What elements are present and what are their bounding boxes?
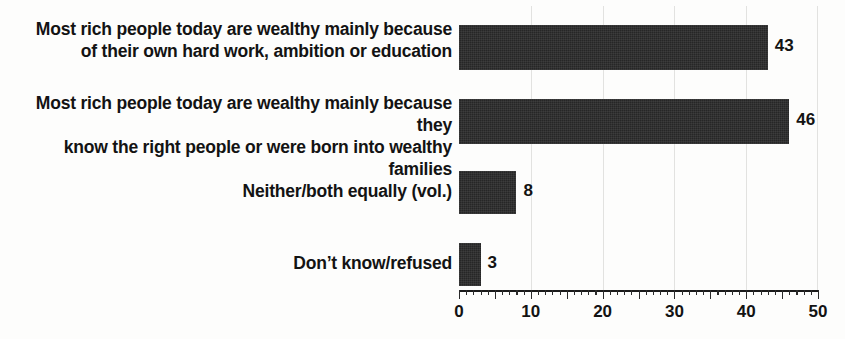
axis-tick-label-40: 40 — [737, 302, 756, 322]
axis-tick-label-10: 10 — [521, 302, 540, 322]
axis-tick-24 — [631, 290, 632, 295]
bar-dont-know-refused[interactable] — [459, 243, 481, 286]
axis-tick-35 — [710, 290, 711, 299]
axis-tick-39 — [739, 290, 740, 295]
axis-tick-26 — [646, 290, 647, 295]
gridline-50 — [817, 6, 818, 292]
axis-tick-46 — [789, 290, 790, 295]
axis-tick-27 — [653, 290, 654, 295]
bar-right-people[interactable] — [459, 99, 789, 144]
axis-tick-42 — [761, 290, 762, 295]
axis-tick-31 — [682, 290, 683, 295]
axis-tick-38 — [732, 290, 733, 295]
bar-neither-both-equally[interactable] — [459, 171, 516, 214]
axis-tick-1 — [466, 290, 467, 295]
axis-tick-label-20: 20 — [593, 302, 612, 322]
bar-chart: Most rich people today are wealthy mainl… — [0, 0, 845, 339]
axis-tick-40 — [746, 290, 747, 299]
axis-tick-25 — [639, 290, 640, 299]
axis-tick-13 — [552, 290, 553, 295]
axis-tick-50 — [818, 290, 819, 299]
axis-tick-9 — [524, 290, 525, 295]
axis-tick-44 — [775, 290, 776, 295]
axis-tick-6 — [502, 290, 503, 295]
category-label-own-hard-work: Most rich people today are wealthy mainl… — [36, 18, 452, 62]
axis-tick-20 — [603, 290, 604, 299]
axis-tick-17 — [581, 290, 582, 295]
axis-tick-36 — [717, 290, 718, 295]
axis-tick-5 — [495, 290, 496, 299]
axis-tick-0 — [459, 290, 460, 299]
axis-tick-3 — [481, 290, 482, 295]
axis-tick-10 — [531, 290, 532, 299]
axis-tick-21 — [610, 290, 611, 295]
axis-tick-32 — [689, 290, 690, 295]
axis-tick-4 — [488, 290, 489, 295]
axis-tick-41 — [753, 290, 754, 295]
axis-tick-16 — [574, 290, 575, 295]
axis-tick-23 — [624, 290, 625, 295]
bar-own-hard-work[interactable] — [459, 25, 768, 70]
category-label-dont-know-refused: Don’t know/refused — [293, 252, 452, 274]
axis-tick-43 — [768, 290, 769, 295]
axis-tick-19 — [595, 290, 596, 295]
axis-tick-28 — [660, 290, 661, 295]
bar-value-neither-both-equally: 8 — [523, 181, 532, 201]
axis-tick-48 — [804, 290, 805, 295]
axis-tick-14 — [560, 290, 561, 295]
axis-tick-49 — [811, 290, 812, 295]
axis-tick-22 — [617, 290, 618, 295]
axis-tick-15 — [567, 290, 568, 299]
axis-tick-37 — [725, 290, 726, 295]
category-label-right-people: Most rich people today are wealthy mainl… — [0, 92, 452, 180]
axis-tick-30 — [674, 290, 675, 299]
axis-tick-label-30: 30 — [665, 302, 684, 322]
axis-tick-18 — [588, 290, 589, 295]
category-label-neither-both-equally: Neither/both equally (vol.) — [243, 180, 452, 202]
axis-tick-34 — [703, 290, 704, 295]
bar-value-right-people: 46 — [796, 110, 815, 130]
axis-tick-label-0: 0 — [454, 302, 463, 322]
plot-area: 43 46 8 3 — [459, 0, 818, 292]
bar-value-dont-know-refused: 3 — [488, 253, 497, 273]
axis-tick-7 — [509, 290, 510, 295]
axis-tick-12 — [545, 290, 546, 295]
x-axis: 01020304050 — [459, 290, 819, 339]
axis-tick-label-50: 50 — [809, 302, 828, 322]
axis-tick-2 — [473, 290, 474, 295]
axis-tick-29 — [667, 290, 668, 295]
axis-tick-47 — [796, 290, 797, 295]
bar-value-own-hard-work: 43 — [775, 36, 794, 56]
axis-tick-11 — [538, 290, 539, 295]
axis-tick-33 — [696, 290, 697, 295]
axis-tick-8 — [516, 290, 517, 295]
axis-tick-45 — [782, 290, 783, 299]
